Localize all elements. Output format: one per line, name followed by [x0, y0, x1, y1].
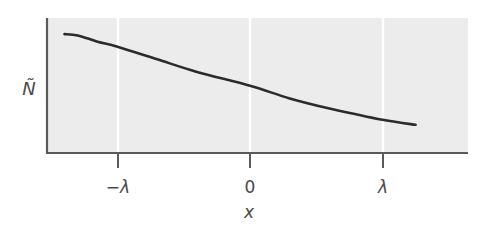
x-tick-label: 0 [245, 179, 256, 196]
x-axis-label: x [244, 204, 254, 221]
x-axis-ticks [118, 153, 383, 168]
chart-canvas [0, 0, 482, 227]
plot-area [47, 18, 468, 153]
x-tick-label: λ [378, 179, 388, 196]
x-tick-label: −λ [106, 179, 130, 196]
y-axis-label: Ñ [22, 80, 35, 98]
